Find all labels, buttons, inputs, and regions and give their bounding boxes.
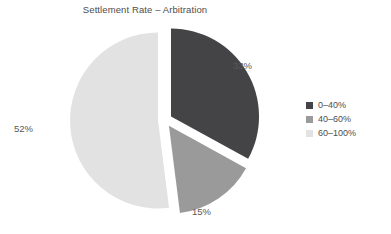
- legend-label-40-60: 40–60%: [318, 115, 351, 124]
- slice-value-label-60-100: 52%: [14, 123, 33, 134]
- legend-item-0-40[interactable]: 0–40%: [306, 98, 390, 112]
- slice-value-label-0-40: 33%: [233, 60, 252, 71]
- legend-swatch-60-100-icon: [306, 130, 313, 137]
- pie-svg: [0, 0, 295, 234]
- legend-swatch-0-40-icon: [306, 102, 313, 109]
- legend-label-60-100: 60–100%: [318, 129, 356, 138]
- legend-label-0-40: 0–40%: [318, 101, 346, 110]
- pie-plot-area: 33% 15% 52%: [0, 0, 295, 234]
- chart-legend: 0–40% 40–60% 60–100%: [306, 98, 390, 140]
- legend-item-60-100[interactable]: 60–100%: [306, 126, 390, 140]
- slice-value-label-40-60: 15%: [192, 206, 211, 217]
- pie-chart-figure: Settlement Rate – Arbitration 33% 15% 52…: [0, 0, 391, 234]
- legend-swatch-40-60-icon: [306, 116, 313, 123]
- pie-slice-60-100[interactable]: [70, 32, 169, 208]
- legend-item-40-60[interactable]: 40–60%: [306, 112, 390, 126]
